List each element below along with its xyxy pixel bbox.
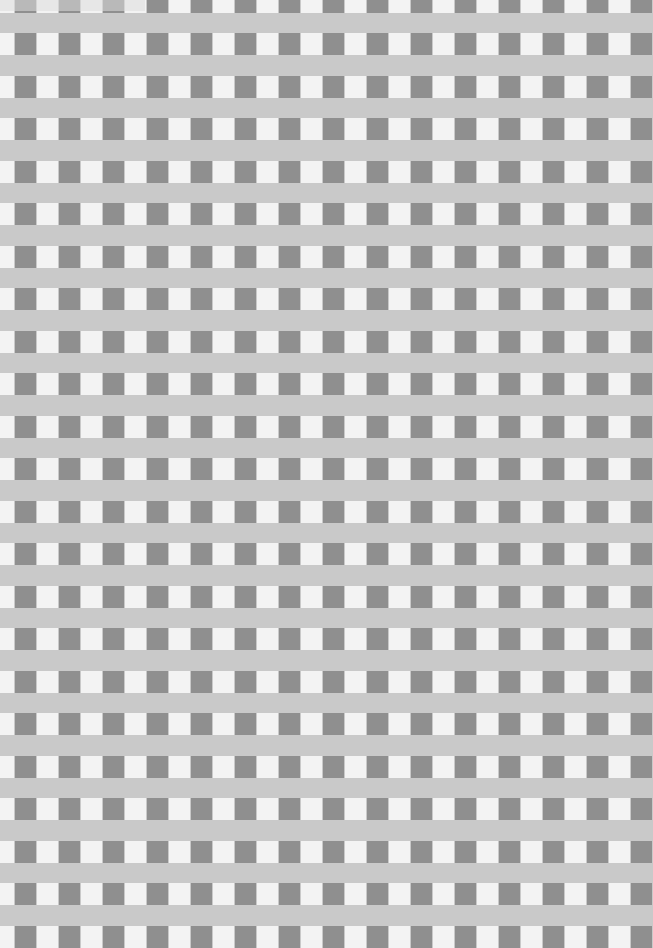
light-square bbox=[565, 586, 586, 608]
dark-square bbox=[59, 543, 80, 565]
light-square bbox=[301, 161, 322, 183]
light-square bbox=[0, 33, 14, 55]
dark-square bbox=[15, 543, 36, 565]
dark-square bbox=[631, 798, 652, 820]
light-square bbox=[301, 118, 322, 140]
dark-square bbox=[543, 288, 564, 310]
dark-square bbox=[631, 331, 652, 353]
light-square bbox=[389, 586, 410, 608]
dark-square bbox=[15, 118, 36, 140]
dark-square bbox=[103, 416, 124, 438]
dark-square bbox=[499, 331, 520, 353]
dark-square bbox=[587, 33, 608, 55]
light-square bbox=[0, 458, 14, 480]
dark-square bbox=[367, 501, 388, 523]
dark-square bbox=[103, 161, 124, 183]
dark-square bbox=[411, 416, 432, 438]
light-square bbox=[477, 543, 498, 565]
light-square bbox=[433, 203, 454, 225]
dark-square bbox=[323, 798, 344, 820]
dark-square bbox=[323, 756, 344, 778]
dark-square bbox=[103, 76, 124, 98]
light-square bbox=[477, 288, 498, 310]
dark-square bbox=[543, 798, 564, 820]
dark-square bbox=[543, 203, 564, 225]
light-square bbox=[81, 33, 102, 55]
light-square bbox=[345, 926, 366, 948]
dark-square bbox=[411, 118, 432, 140]
light-square bbox=[301, 203, 322, 225]
light-square bbox=[37, 118, 58, 140]
dark-square bbox=[103, 671, 124, 693]
dark-square bbox=[367, 628, 388, 650]
dark-square bbox=[191, 458, 212, 480]
dark-square bbox=[191, 373, 212, 395]
dark-square bbox=[103, 246, 124, 268]
light-square bbox=[37, 841, 58, 863]
dark-square bbox=[15, 76, 36, 98]
light-square bbox=[521, 288, 542, 310]
dark-square bbox=[103, 33, 124, 55]
dark-square bbox=[323, 416, 344, 438]
dark-square bbox=[455, 926, 476, 948]
light-square bbox=[345, 416, 366, 438]
dark-square bbox=[323, 288, 344, 310]
light-square bbox=[565, 203, 586, 225]
dark-square bbox=[147, 288, 168, 310]
dark-square bbox=[411, 501, 432, 523]
light-square bbox=[301, 458, 322, 480]
light-square bbox=[389, 883, 410, 905]
light-square bbox=[301, 671, 322, 693]
dark-square bbox=[279, 0, 300, 13]
light-square bbox=[213, 628, 234, 650]
light-square bbox=[477, 161, 498, 183]
light-square bbox=[257, 501, 278, 523]
dark-square bbox=[235, 203, 256, 225]
dark-square bbox=[147, 246, 168, 268]
dark-square bbox=[367, 841, 388, 863]
dark-square bbox=[279, 756, 300, 778]
light-square bbox=[301, 543, 322, 565]
dark-square bbox=[631, 841, 652, 863]
dark-square bbox=[59, 756, 80, 778]
dark-square bbox=[279, 883, 300, 905]
pattern-row bbox=[0, 713, 653, 735]
dark-square bbox=[543, 331, 564, 353]
light-square bbox=[81, 76, 102, 98]
dark-square bbox=[103, 501, 124, 523]
dark-square bbox=[455, 118, 476, 140]
dark-square bbox=[587, 458, 608, 480]
dark-square bbox=[191, 118, 212, 140]
light-square bbox=[257, 458, 278, 480]
pattern-row bbox=[0, 883, 653, 905]
light-square bbox=[565, 76, 586, 98]
dark-square bbox=[543, 628, 564, 650]
light-square bbox=[477, 883, 498, 905]
dark-square bbox=[59, 798, 80, 820]
pattern-row bbox=[0, 501, 653, 523]
dark-square bbox=[543, 246, 564, 268]
light-square bbox=[213, 458, 234, 480]
dark-square bbox=[543, 33, 564, 55]
dark-square bbox=[499, 161, 520, 183]
light-square bbox=[565, 756, 586, 778]
dark-square bbox=[59, 586, 80, 608]
dark-square bbox=[191, 76, 212, 98]
dark-square bbox=[191, 926, 212, 948]
light-square bbox=[301, 331, 322, 353]
light-square bbox=[345, 76, 366, 98]
dark-square bbox=[367, 671, 388, 693]
dark-square bbox=[15, 756, 36, 778]
light-square bbox=[609, 841, 630, 863]
light-square bbox=[433, 883, 454, 905]
light-square bbox=[477, 671, 498, 693]
light-square bbox=[345, 118, 366, 140]
pattern-row bbox=[0, 288, 653, 310]
light-square bbox=[169, 926, 190, 948]
light-square bbox=[345, 373, 366, 395]
light-square bbox=[169, 373, 190, 395]
light-square bbox=[81, 118, 102, 140]
dark-square bbox=[15, 798, 36, 820]
light-square bbox=[0, 671, 14, 693]
